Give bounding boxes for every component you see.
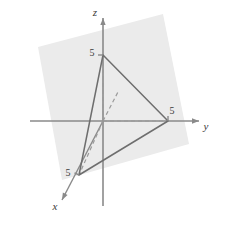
coordinate-diagram: 5 5 5 z y x <box>0 0 227 227</box>
tick-label-y: 5 <box>170 105 175 116</box>
tick-label-x: 5 <box>66 167 71 178</box>
y-axis-arrow-icon <box>192 118 199 123</box>
shaded-plane <box>38 14 189 180</box>
x-axis-arrow-icon <box>62 193 68 200</box>
y-axis-label: y <box>203 120 209 132</box>
z-axis-label: z <box>92 6 98 18</box>
x-axis-label: x <box>52 200 58 212</box>
figure-container: 5 5 5 z y x <box>0 0 227 227</box>
tick-label-z: 5 <box>90 47 95 58</box>
z-axis-arrow-icon <box>100 18 105 25</box>
